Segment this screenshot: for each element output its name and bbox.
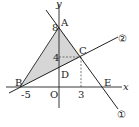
y-axis-label: y [55, 0, 62, 9]
point-label-a: A [60, 17, 69, 28]
point-label-d: D [61, 69, 69, 80]
origin-label: O [50, 89, 58, 100]
point-label-c: C [79, 45, 87, 56]
point-label-b: B [15, 77, 22, 88]
point-label-e: E [104, 77, 111, 88]
x-axis-label: x [123, 81, 129, 92]
line-1-label: ① [117, 109, 126, 120]
line-2-label: ② [118, 33, 127, 44]
tick-label-x-neg5: -5 [21, 89, 31, 100]
shaded-triangle-abc [20, 27, 81, 87]
coordinate-diagram: y x O -5 3 8 4 A B C D E ② ① [0, 0, 139, 127]
tick-label-y-8: 8 [52, 22, 58, 33]
tick-label-y-4: 4 [53, 52, 59, 63]
tick-label-x-3: 3 [78, 89, 84, 100]
